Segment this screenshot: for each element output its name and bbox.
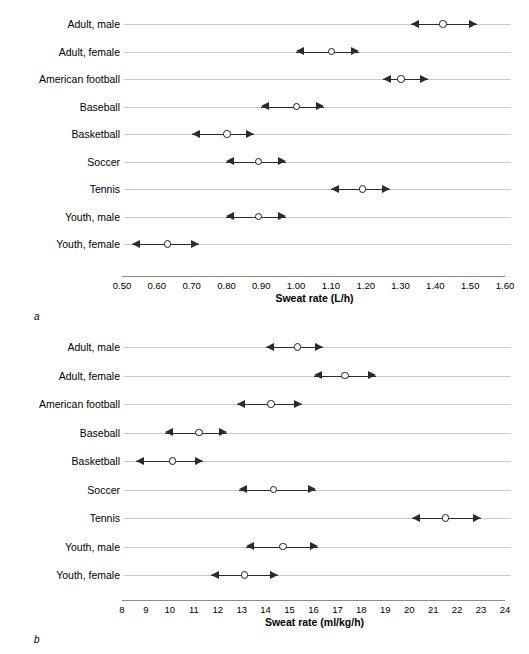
axis-tick-label: 16 xyxy=(308,604,319,615)
chart-row: Tennis xyxy=(0,181,529,197)
mean-marker xyxy=(293,103,300,110)
arrow-right-icon xyxy=(278,157,286,165)
axis-line xyxy=(122,276,505,277)
arrow-left-icon xyxy=(383,75,391,83)
gridline xyxy=(124,189,511,190)
axis-tick-label: 14 xyxy=(260,604,271,615)
panel-label-b: b xyxy=(34,634,40,645)
mean-marker xyxy=(195,429,202,436)
arrow-left-icon xyxy=(192,130,200,138)
axis-tick-label: 21 xyxy=(428,604,439,615)
axis-line xyxy=(122,600,505,601)
axis-tick-label: 11 xyxy=(189,604,199,615)
mean-marker xyxy=(255,213,262,220)
range-interval xyxy=(246,547,318,548)
arrow-right-icon xyxy=(219,428,227,436)
category-label: Adult, male xyxy=(67,339,120,355)
arrow-left-icon xyxy=(412,514,420,522)
axis-tick-label: 0.50 xyxy=(113,280,132,291)
axis-tick-label: 18 xyxy=(356,604,367,615)
panel-label-a: a xyxy=(34,311,40,322)
chart-row: Youth, female xyxy=(0,236,529,252)
range-interval xyxy=(314,376,376,377)
mean-marker xyxy=(255,158,262,165)
chart-row: Soccer xyxy=(0,154,529,170)
mean-marker xyxy=(267,400,274,407)
range-interval xyxy=(266,347,323,348)
x-axis-title-a: Sweat rate (L/h) xyxy=(0,292,529,304)
chart-row: Baseball xyxy=(0,99,529,115)
range-interval xyxy=(132,244,198,245)
range-interval xyxy=(261,107,324,108)
chart-row: Youth, male xyxy=(0,209,529,225)
mean-marker xyxy=(294,343,301,350)
arrow-left-icon xyxy=(314,371,322,379)
axis-tick-label: 23 xyxy=(476,604,487,615)
range-line xyxy=(239,490,316,491)
category-label: Basketball xyxy=(72,453,120,469)
range-interval xyxy=(136,461,203,462)
category-label: Baseball xyxy=(80,99,120,115)
category-label: American football xyxy=(39,71,120,87)
arrow-right-icon xyxy=(308,485,316,493)
arrow-left-icon xyxy=(411,20,419,28)
x-axis-title-b-text: Sweat rate (ml/kg/h) xyxy=(165,616,364,628)
chart-row: Tennis xyxy=(0,510,529,526)
chart-row: Basketball xyxy=(0,126,529,142)
chart-row: Adult, male xyxy=(0,16,529,32)
arrow-right-icon xyxy=(420,75,428,83)
range-interval xyxy=(296,52,359,53)
gridline xyxy=(124,490,511,491)
chart-panel-a: Adult, maleAdult, femaleAmerican footbal… xyxy=(0,0,529,330)
gridline xyxy=(124,162,511,163)
axis-tick-label: 24 xyxy=(500,604,511,615)
range-interval xyxy=(211,575,278,576)
category-label: Youth, male xyxy=(65,539,120,555)
arrow-left-icon xyxy=(237,400,245,408)
category-label: Soccer xyxy=(87,482,120,498)
arrow-left-icon xyxy=(261,102,269,110)
arrow-right-icon xyxy=(315,343,323,351)
axis-tick-label: 0.60 xyxy=(148,280,167,291)
mean-marker xyxy=(169,457,176,464)
category-label: American football xyxy=(39,396,120,412)
mean-marker xyxy=(397,75,404,82)
category-label: Youth, female xyxy=(56,236,120,252)
chart-row: Baseball xyxy=(0,425,529,441)
axis-tick-label: 19 xyxy=(380,604,391,615)
arrow-right-icon xyxy=(195,457,203,465)
arrow-left-icon xyxy=(246,542,254,550)
range-interval xyxy=(383,79,428,80)
chart-row: Youth, male xyxy=(0,539,529,555)
arrow-right-icon xyxy=(270,571,278,579)
axis-tick-label: 10 xyxy=(165,604,176,615)
arrow-left-icon xyxy=(266,343,274,351)
range-interval xyxy=(226,217,285,218)
axis-tick-label: 8 xyxy=(119,604,124,615)
mean-marker xyxy=(241,571,248,578)
arrow-right-icon xyxy=(351,47,359,55)
mean-marker xyxy=(270,486,277,493)
category-label: Basketball xyxy=(72,126,120,142)
category-label: Adult, female xyxy=(59,368,120,384)
axis-tick-label: 1.00 xyxy=(287,280,306,291)
range-interval xyxy=(165,433,227,434)
arrow-right-icon xyxy=(310,542,318,550)
arrow-right-icon xyxy=(368,371,376,379)
axis-tick-label: 20 xyxy=(404,604,415,615)
arrow-right-icon xyxy=(473,514,481,522)
arrow-left-icon xyxy=(239,485,247,493)
range-interval xyxy=(237,404,302,405)
chart-row: Adult, female xyxy=(0,44,529,60)
axis-tick-label: 1.50 xyxy=(461,280,480,291)
chart-row: Adult, female xyxy=(0,368,529,384)
arrow-right-icon xyxy=(316,102,324,110)
range-interval xyxy=(192,134,255,135)
axis-tick-label: 1.20 xyxy=(356,280,375,291)
arrow-left-icon xyxy=(165,428,173,436)
arrow-right-icon xyxy=(469,20,477,28)
category-label: Adult, female xyxy=(59,44,120,60)
x-axis-title-a-text: Sweat rate (L/h) xyxy=(175,292,353,304)
arrow-left-icon xyxy=(136,457,144,465)
category-label: Tennis xyxy=(90,510,120,526)
